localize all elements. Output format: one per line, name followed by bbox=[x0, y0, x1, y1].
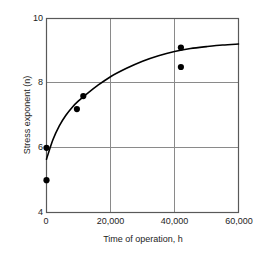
data-point bbox=[43, 177, 49, 183]
data-point bbox=[43, 145, 49, 151]
y-axis-title: Stress exponent (n) bbox=[22, 40, 32, 190]
x-axis-title: Time of operation, h bbox=[46, 234, 240, 244]
x-tick-label-40000: 40,000 bbox=[152, 216, 198, 226]
plot-background bbox=[46, 18, 239, 213]
x-tick-label-20000: 20,000 bbox=[88, 216, 134, 226]
x-tick-label-60000: 60,000 bbox=[216, 216, 262, 226]
data-point bbox=[80, 93, 86, 99]
data-point bbox=[178, 64, 184, 70]
data-point bbox=[74, 106, 80, 112]
chart-figure: 10 8 6 4 0 20,000 40,000 60,000 Time of … bbox=[0, 0, 269, 261]
x-tick-label-0: 0 bbox=[23, 216, 69, 226]
data-point bbox=[178, 45, 184, 51]
y-tick-label-10: 10 bbox=[21, 13, 43, 23]
